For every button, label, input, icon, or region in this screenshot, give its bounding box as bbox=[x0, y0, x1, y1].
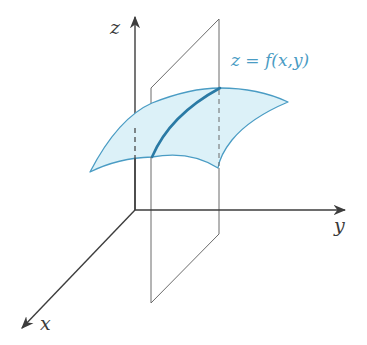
x-axis-label: x bbox=[40, 312, 51, 334]
surface-patch bbox=[90, 88, 288, 172]
z-axis-label: z bbox=[109, 16, 121, 38]
plane-bottom-edge bbox=[151, 234, 219, 303]
vertical-plane-lower bbox=[151, 157, 219, 303]
y-axis-label: y bbox=[333, 214, 345, 236]
plane-top-edge bbox=[151, 19, 219, 88]
surface-equation-label: z = f(x,y) bbox=[230, 50, 309, 70]
x-axis bbox=[22, 210, 135, 328]
surface-plane-diagram: z y x z = f(x,y) bbox=[0, 0, 367, 345]
